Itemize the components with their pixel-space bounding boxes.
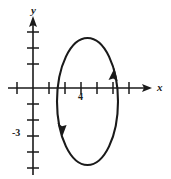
y-axis-label: y (31, 5, 36, 16)
x-tick-label-4: 4 (78, 92, 83, 102)
ellipse-curve (57, 38, 118, 165)
direction-arrow-down-icon (58, 123, 67, 136)
x-axis-label: x (157, 82, 163, 93)
y-tick-label-negative-3: -3 (12, 128, 20, 138)
coordinate-plane-svg (0, 0, 171, 179)
graph-figure: y x 4 -3 (0, 0, 171, 179)
